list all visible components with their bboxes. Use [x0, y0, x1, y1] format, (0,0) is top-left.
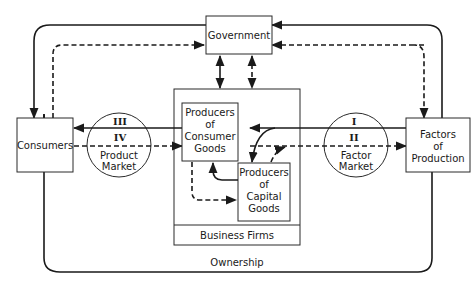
flow-label-iii: III: [113, 116, 127, 127]
factors-label-3: Production: [411, 153, 464, 164]
product-market-label-2: Market: [102, 161, 136, 172]
circular-flow-diagram: Government Consumers Factors of Producti…: [0, 0, 476, 288]
consumer-goods-label-1: Producers: [185, 107, 235, 118]
factor-market-label-1: Factor: [341, 150, 372, 161]
consumers-label: Consumers: [17, 140, 73, 151]
consumer-goods-label-4: Goods: [194, 143, 226, 154]
flow-label-i: I: [352, 116, 357, 127]
capital-goods-label-4: Goods: [248, 203, 280, 214]
government-label: Government: [208, 30, 270, 41]
business-firms-label: Business Firms: [200, 230, 274, 241]
flow-label-ii: II: [349, 132, 359, 143]
capital-goods-label-2: of: [259, 179, 269, 190]
factors-label-2: of: [433, 141, 443, 152]
gov-to-factors-dashed-end: [414, 45, 424, 118]
consumer-goods-label-2: of: [205, 119, 215, 130]
capital-goods-label-1: Producers: [239, 167, 289, 178]
product-market-label-1: Product: [100, 150, 138, 161]
flow-label-iv: IV: [114, 132, 127, 143]
ownership-label: Ownership: [210, 257, 263, 268]
consumer-goods-label-3: Consumer: [185, 131, 237, 142]
factors-label-1: Factors: [420, 129, 456, 140]
factor-market-label-2: Market: [339, 161, 373, 172]
capital-goods-label-3: Capital: [246, 191, 281, 202]
